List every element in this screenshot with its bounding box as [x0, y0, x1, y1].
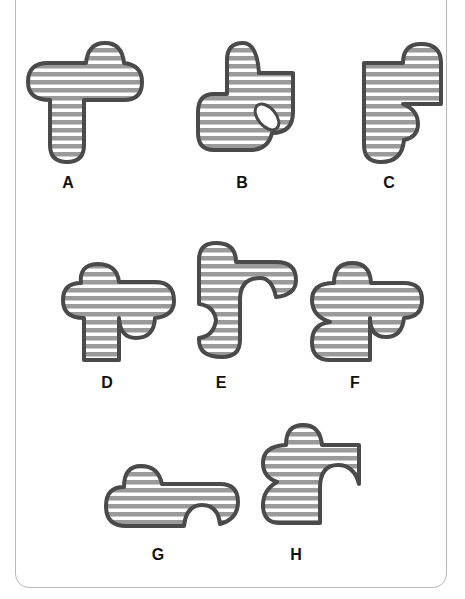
option-label-g: G — [152, 546, 164, 563]
shape-a[interactable]: A — [28, 43, 142, 191]
shape-g[interactable]: G — [106, 466, 238, 563]
shape-e[interactable]: E — [199, 243, 296, 391]
option-label-e: E — [216, 374, 227, 391]
option-label-h: H — [290, 546, 302, 563]
option-label-a: A — [62, 174, 74, 191]
shape-b[interactable]: B — [198, 43, 293, 191]
shape-c[interactable]: C — [364, 44, 441, 191]
shapes-canvas: A B C D E F G H — [0, 0, 465, 599]
shape-h[interactable]: H — [263, 425, 359, 563]
shape-d[interactable]: D — [63, 264, 174, 391]
option-label-f: F — [350, 374, 360, 391]
option-label-b: B — [236, 174, 248, 191]
shape-f[interactable]: F — [312, 263, 422, 391]
option-label-d: D — [101, 374, 113, 391]
option-label-c: C — [383, 174, 395, 191]
